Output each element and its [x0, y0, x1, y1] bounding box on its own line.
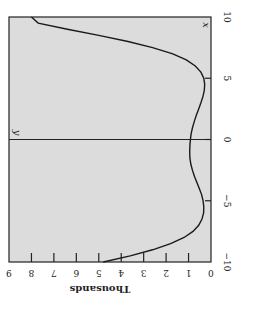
- x-tick-label: 10: [222, 11, 232, 23]
- value-axis-title: Thousands: [69, 284, 130, 295]
- x-tick-label: 0: [222, 137, 232, 143]
- y-axis-marker-label: y: [12, 129, 23, 136]
- value-tick-label: 8: [28, 268, 34, 278]
- value-tick-label: 2: [163, 268, 169, 278]
- value-tick-label: 6: [73, 268, 79, 278]
- rotated-line-chart: 0123456789 −10−50510 x y Thousands: [0, 0, 254, 309]
- value-tick-label: 7: [51, 268, 57, 278]
- value-tick-label: 3: [141, 268, 147, 278]
- x-tick-label: −5: [222, 194, 232, 208]
- value-tick-label: 1: [186, 268, 192, 278]
- x-axis-label: x: [201, 22, 212, 28]
- x-tick-label: 5: [222, 75, 232, 81]
- value-tick-label: 9: [6, 268, 12, 278]
- value-tick-label: 4: [118, 268, 124, 278]
- value-tick-label: 0: [208, 268, 214, 278]
- value-tick-label: 5: [96, 268, 102, 278]
- x-tick-label: −10: [222, 253, 232, 272]
